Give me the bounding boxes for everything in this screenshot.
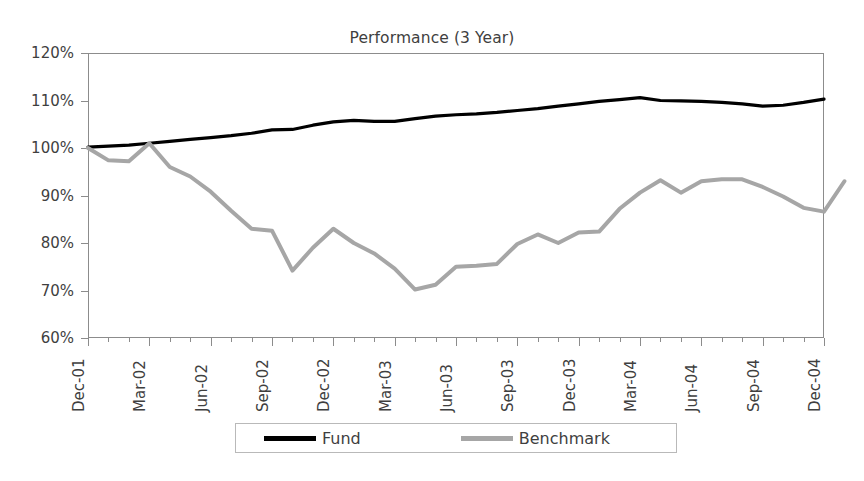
y-axis-tick-label: 60% <box>41 329 74 347</box>
x-axis-tick-label-text: Mar-03 <box>377 360 395 412</box>
x-axis-tick-label-text: Sep-04 <box>745 359 763 412</box>
chart-title: Performance (3 Year) <box>0 29 864 47</box>
y-axis-tick-label: 100% <box>31 139 74 157</box>
y-axis-tick-label: 110% <box>31 92 74 110</box>
x-axis-minor-tick <box>742 338 743 342</box>
x-axis-minor-tick <box>292 338 293 342</box>
legend-swatch-fund <box>264 436 316 441</box>
x-axis-tick-label-text: Jun-02 <box>193 364 211 412</box>
legend-label-fund: Fund <box>322 429 361 448</box>
x-axis-minor-tick <box>538 338 539 342</box>
x-axis-tick-label-text: Mar-04 <box>622 360 640 412</box>
x-axis-tick-label-text: Jun-03 <box>438 364 456 412</box>
series-lines <box>88 53 824 338</box>
x-axis-major-tick <box>395 338 396 346</box>
x-axis-minor-tick <box>170 338 171 342</box>
x-axis-tick-label-text: Sep-02 <box>254 359 272 412</box>
x-axis-major-tick <box>88 338 89 346</box>
y-axis-tick <box>81 243 88 244</box>
legend-entry-benchmark: Benchmark <box>461 424 610 452</box>
x-axis-major-tick <box>701 338 702 346</box>
y-axis-tick-label: 120% <box>31 44 74 62</box>
x-axis-major-tick <box>763 338 764 346</box>
x-axis-minor-tick <box>252 338 253 342</box>
series-line-fund <box>88 98 824 147</box>
x-axis-minor-tick <box>190 338 191 342</box>
x-axis-major-tick <box>640 338 641 346</box>
x-axis-minor-tick <box>108 338 109 342</box>
x-axis-tick-label-text: Jun-04 <box>683 364 701 412</box>
x-axis-minor-tick <box>436 338 437 342</box>
y-axis-tick <box>81 101 88 102</box>
x-axis-major-tick <box>824 338 825 346</box>
x-axis-minor-tick <box>313 338 314 342</box>
y-axis-tick-label: 80% <box>41 234 74 252</box>
x-axis-minor-tick <box>374 338 375 342</box>
x-axis-tick-label-text: Dec-04 <box>806 358 824 412</box>
y-axis-tick <box>81 291 88 292</box>
x-axis-major-tick <box>456 338 457 346</box>
x-axis-minor-tick <box>476 338 477 342</box>
legend-label-benchmark: Benchmark <box>519 429 610 448</box>
x-axis-minor-tick <box>558 338 559 342</box>
y-axis-tick <box>81 338 88 339</box>
x-axis-minor-tick <box>620 338 621 342</box>
chart-legend: Fund Benchmark <box>235 423 677 453</box>
x-axis-minor-tick <box>497 338 498 342</box>
x-axis-minor-tick <box>681 338 682 342</box>
x-axis-minor-tick <box>660 338 661 342</box>
y-axis-tick <box>81 196 88 197</box>
x-axis-major-tick <box>211 338 212 346</box>
x-axis-minor-tick <box>415 338 416 342</box>
x-axis-major-tick <box>517 338 518 346</box>
x-axis-minor-tick <box>231 338 232 342</box>
y-axis-tick-label: 90% <box>41 187 74 205</box>
x-axis-tick-label-text: Sep-03 <box>499 359 517 412</box>
x-axis-minor-tick <box>599 338 600 342</box>
series-line-benchmark <box>88 143 844 289</box>
x-axis-minor-tick <box>722 338 723 342</box>
x-axis-tick-label-text: Dec-03 <box>561 358 579 412</box>
x-axis-tick-label-text: Mar-02 <box>131 360 149 412</box>
legend-entry-fund: Fund <box>264 424 361 452</box>
y-axis-tick-label: 70% <box>41 282 74 300</box>
x-axis-major-tick <box>272 338 273 346</box>
legend-swatch-benchmark <box>461 436 513 441</box>
x-axis-minor-tick <box>783 338 784 342</box>
x-axis-major-tick <box>579 338 580 346</box>
y-axis-labels: 120%110%100%90%80%70%60% <box>0 53 78 338</box>
x-axis-minor-tick <box>354 338 355 342</box>
x-axis-tick-label-text: Dec-01 <box>70 358 88 412</box>
x-axis-minor-tick <box>804 338 805 342</box>
x-axis-minor-tick <box>129 338 130 342</box>
performance-chart: Performance (3 Year) 120%110%100%90%80%7… <box>0 0 864 481</box>
x-axis-major-tick <box>333 338 334 346</box>
x-axis-major-tick <box>149 338 150 346</box>
y-axis-tick <box>81 53 88 54</box>
x-axis-tick-label-text: Dec-02 <box>315 358 333 412</box>
